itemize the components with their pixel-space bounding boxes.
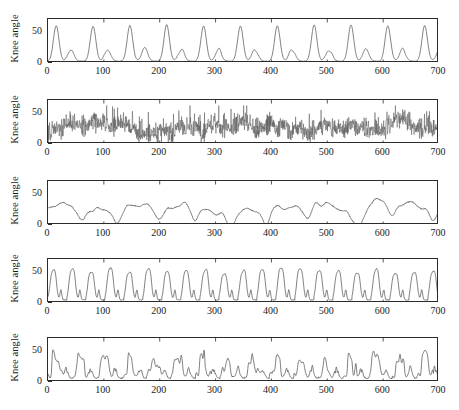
x-tick-label: 500 [311,227,341,238]
y-axis-label: Knee angle [9,85,20,155]
x-tick-label: 700 [423,65,453,76]
data-line-2 [48,106,438,144]
y-axis-label: Knee angle [9,166,20,236]
y-tick-mark [48,381,52,382]
x-tick-label: 400 [255,384,285,395]
x-tick-label: 0 [32,227,62,238]
x-tick-label: 100 [88,146,118,157]
x-tick-label: 200 [144,65,174,76]
x-tick-label: 0 [32,146,62,157]
x-tick-label: 700 [423,305,453,316]
x-tick-label: 0 [32,305,62,316]
x-tick-label: 200 [144,227,174,238]
y-tick-mark [48,302,52,303]
subplot-panel-4: Knee angle0500100200300400500600700 [0,258,459,328]
data-line-5 [48,350,438,379]
plot-area-1 [47,18,438,62]
x-tick-label: 100 [88,384,118,395]
x-tick-label: 400 [255,146,285,157]
y-tick-mark [48,224,52,225]
plot-area-2 [47,99,438,143]
subplot-panel-5: Knee angle0500100200300400500600700 [0,337,459,407]
x-tick-label: 500 [311,384,341,395]
plot-area-5 [47,337,438,381]
x-tick-label: 700 [423,384,453,395]
x-tick-label: 100 [88,305,118,316]
x-tick-label: 400 [255,65,285,76]
x-tick-label: 500 [311,146,341,157]
x-tick-label: 200 [144,146,174,157]
y-tick-mark [48,62,52,63]
x-tick-label: 500 [311,305,341,316]
y-tick-mark [48,143,52,144]
y-tick-label: 50 [20,265,42,276]
data-line-4 [48,268,438,301]
x-tick-label: 600 [367,384,397,395]
x-tick-label: 200 [144,305,174,316]
x-tick-label: 100 [88,227,118,238]
x-tick-label: 600 [367,146,397,157]
plot-area-4 [47,258,438,302]
x-tick-label: 300 [200,146,230,157]
x-tick-label: 100 [88,65,118,76]
y-tick-label: 50 [20,25,42,36]
y-axis-label: Knee angle [9,4,20,74]
y-tick-label: 50 [20,187,42,198]
x-tick-label: 200 [144,384,174,395]
subplot-panel-1: Knee angle0500100200300400500600700 [0,18,459,88]
x-tick-label: 500 [311,65,341,76]
y-tick-label: 50 [20,344,42,355]
data-line-3 [48,198,438,224]
x-tick-label: 300 [200,305,230,316]
x-tick-label: 300 [200,384,230,395]
y-axis-label: Knee angle [9,323,20,393]
x-tick-label: 700 [423,227,453,238]
x-tick-label: 700 [423,146,453,157]
knee-angle-multipanel-figure: Knee angle0500100200300400500600700Knee … [0,0,459,410]
x-tick-label: 600 [367,227,397,238]
y-axis-label: Knee angle [9,244,20,314]
data-line-1 [48,25,438,62]
x-tick-label: 400 [255,227,285,238]
subplot-panel-2: Knee angle0500100200300400500600700 [0,99,459,169]
x-tick-label: 600 [367,65,397,76]
x-tick-label: 0 [32,65,62,76]
x-tick-label: 400 [255,305,285,316]
x-tick-label: 300 [200,65,230,76]
x-tick-label: 0 [32,384,62,395]
subplot-panel-3: Knee angle0500100200300400500600700 [0,180,459,250]
x-tick-label: 600 [367,305,397,316]
x-tick-label: 300 [200,227,230,238]
plot-area-3 [47,180,438,224]
y-tick-label: 50 [20,106,42,117]
